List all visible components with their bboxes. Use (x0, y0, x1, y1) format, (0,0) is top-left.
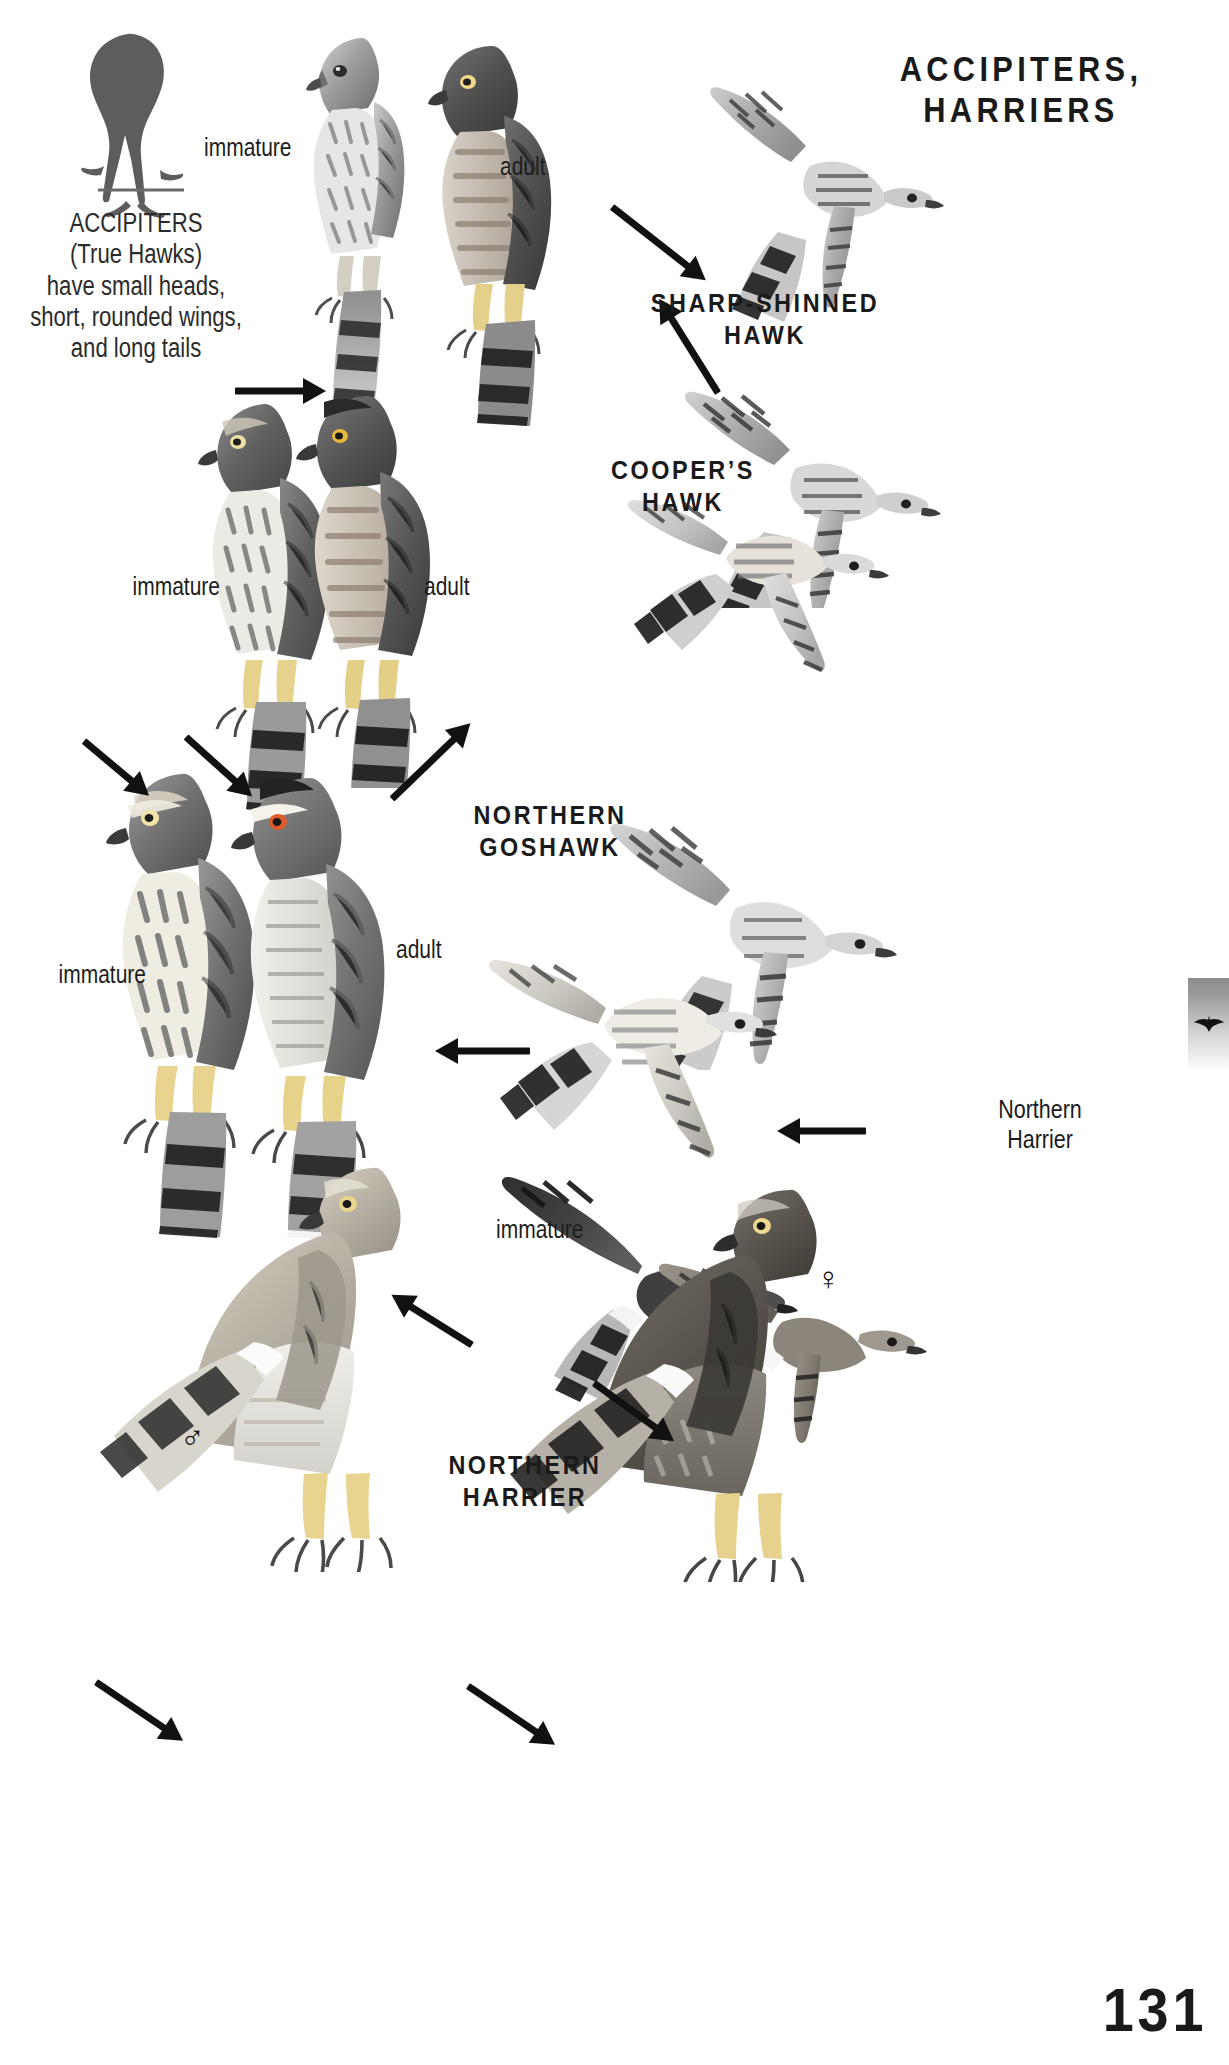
species-line-1: NORTHERN (413, 1450, 638, 1482)
field-guide-plate-page: ACCIPITERS, HARRIERS ACCIPITERS (True Ha… (0, 0, 1229, 2065)
intro-line-5: and long tails (24, 333, 247, 364)
intro-line-2: (True Hawks) (24, 239, 247, 270)
page-number: 131 (1102, 1974, 1207, 2045)
species-label-sharp-shinned-hawk: SHARP-SHINNED HAWK (635, 288, 896, 351)
coopers-immature-label: immature (128, 572, 220, 601)
pointer-arrow-icon (88, 1670, 193, 1754)
thumb-index-tab[interactable] (1188, 978, 1229, 1070)
species-line-1: COOPER’S (571, 455, 796, 487)
pointer-arrow-icon (460, 1674, 565, 1758)
northern-harrier-side-label: Northern Harrier (963, 1094, 1118, 1154)
pointer-arrow-icon (776, 1118, 866, 1144)
plate-title: ACCIPITERS, HARRIERS (860, 48, 1182, 131)
side-label-line-2: Harrier (963, 1124, 1118, 1154)
plate-title-line-1: ACCIPITERS, (860, 48, 1182, 89)
goshawk-immature-label: immature (54, 960, 146, 989)
intro-line-4: short, rounded wings, (24, 302, 247, 333)
species-label-northern-harrier: NORTHERN HARRIER (413, 1450, 638, 1513)
perched-accipiter-silhouette-icon (68, 18, 208, 218)
species-line-2: HARRIER (413, 1482, 638, 1514)
sharp-shinned-hawk-adult-perched-illustration (400, 36, 630, 426)
species-line-1: SHARP-SHINNED (635, 288, 896, 320)
species-label-coopers-hawk: COOPER’S HAWK (571, 455, 796, 518)
species-line-2: GOSHAWK (433, 832, 667, 864)
male-symbol: ♂ (180, 1421, 205, 1454)
sharp-shinned-adult-label: adult (500, 152, 546, 181)
northern-harrier-female-perched-illustration (390, 1142, 880, 1582)
intro-line-3: have small heads, (24, 271, 247, 302)
accipiters-intro-text: ACCIPITERS (True Hawks) have small heads… (24, 208, 247, 365)
species-line-2: HAWK (635, 320, 896, 352)
flying-hawk-silhouette-icon (1192, 1013, 1226, 1035)
side-label-line-1: Northern (963, 1094, 1118, 1124)
plate-title-line-2: HARRIERS (860, 89, 1182, 130)
intro-line-1: ACCIPITERS (24, 208, 247, 239)
species-line-2: HAWK (571, 487, 796, 519)
pointer-arrow-icon (235, 378, 327, 404)
female-symbol: ♀ (816, 1262, 841, 1295)
species-line-1: NORTHERN (433, 800, 667, 832)
pointer-arrow-icon (434, 1038, 530, 1064)
sharp-shinned-immature-label: immature (204, 133, 288, 162)
species-label-northern-goshawk: NORTHERN GOSHAWK (433, 800, 667, 863)
coopers-adult-label: adult (424, 572, 470, 601)
harrier-immature-label: immature (496, 1215, 584, 1244)
goshawk-adult-label: adult (396, 935, 442, 964)
